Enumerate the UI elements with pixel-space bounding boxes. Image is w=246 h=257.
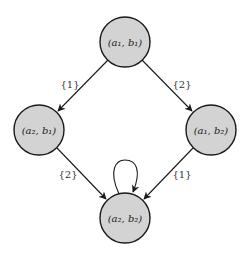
node-a2-b2: (a₂, b₂) xyxy=(100,193,150,243)
svg-text:(a₂, b₂): (a₂, b₂) xyxy=(108,213,143,224)
state-diagram: {1} {2} {2} {1} (a₁, b₁) (a₂, b₁) (a₁, b… xyxy=(0,0,246,257)
svg-text:(a₁, b₁): (a₁, b₁) xyxy=(108,37,143,48)
svg-text:(a₁, b₂): (a₁, b₂) xyxy=(194,125,229,136)
node-a2-b1: (a₂, b₁) xyxy=(14,105,64,155)
edge-label-n12-n22: {1} xyxy=(172,169,191,180)
svg-text:(a₂, b₁): (a₂, b₁) xyxy=(22,125,57,136)
edge-label-n21-n22: {2} xyxy=(58,169,77,180)
edge-label-n11-n21: {1} xyxy=(60,79,79,90)
node-a1-b2: (a₁, b₂) xyxy=(186,105,236,155)
edge-n22-self-loop xyxy=(114,160,138,194)
edge-label-n11-n12: {2} xyxy=(172,79,191,90)
node-a1-b1: (a₁, b₁) xyxy=(100,17,150,67)
